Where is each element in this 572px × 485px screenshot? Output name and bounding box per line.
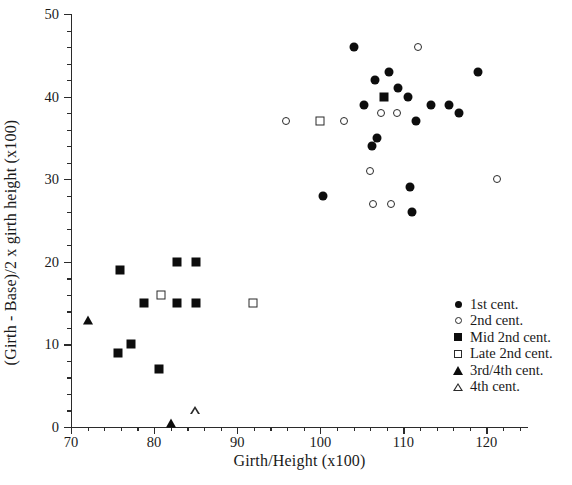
data-point-open-circle [340,117,348,125]
data-point-filled-square [113,348,122,357]
x-tick-minor [453,427,454,431]
x-tick-major [71,427,72,434]
data-point-open-circle [493,175,501,183]
y-tick-minor [67,377,71,378]
y-tick-minor [67,229,71,230]
y-tick-major [64,262,71,263]
x-tick-minor [387,427,388,431]
x-tick-minor [88,427,89,431]
data-point-filled-circle [360,100,369,109]
data-point-open-circle [393,109,401,117]
scatter-plot-figure: 708090100110120 01020304050 Girth/Height… [0,0,572,485]
data-point-filled-circle [349,43,358,52]
y-tick-minor [67,146,71,147]
data-point-filled-circle [406,183,415,192]
data-point-filled-square [116,266,125,275]
x-tick-label: 80 [147,434,162,451]
data-point-open-square [156,290,165,299]
legend-item-1: 1st cent. [450,296,553,313]
marker-glyph [453,366,463,375]
data-point-filled-circle [371,76,380,85]
y-tick-minor [67,196,71,197]
x-tick-minor [520,427,521,431]
x-tick-minor [304,427,305,431]
data-point-filled-square [172,299,181,308]
x-tick-major [237,427,238,434]
y-tick-minor [67,47,71,48]
data-point-filled-circle [385,67,394,76]
data-point-filled-triangle [166,418,176,427]
data-point-open-square [248,299,257,308]
data-point-filled-circle [474,67,483,76]
data-point-filled-triangle [83,315,93,324]
data-point-open-circle [282,117,290,125]
legend-marker-filled-square-icon [450,333,466,341]
legend-label: Mid 2nd cent. [470,329,551,346]
data-point-filled-circle [445,100,454,109]
legend-marker-open-square-icon [450,350,466,358]
legend-marker-filled-triangle-icon [450,366,466,375]
legend-item-6: 4th cent. [450,379,553,396]
data-point-filled-circle [411,117,420,126]
y-axis-line [71,14,72,428]
y-tick-minor [67,130,71,131]
y-tick-minor [67,80,71,81]
legend-label: 2nd cent. [470,312,523,329]
x-tick-minor [370,427,371,431]
data-point-filled-square [155,365,164,374]
y-axis-label: (Girth - Base)/2 x girth height (x100) [0,0,22,485]
x-tick-minor [187,427,188,431]
marker-glyph [455,317,462,324]
x-tick-major [320,427,321,434]
marker-glyph [454,350,462,358]
legend-item-4: Late 2nd cent. [450,346,553,363]
y-tick-minor [67,394,71,395]
legend-item-3: Mid 2nd cent. [450,329,553,346]
y-tick-minor [67,212,71,213]
x-tick-minor [121,427,122,431]
data-points-layer [71,14,528,22]
marker-glyph [453,383,463,391]
y-tick-label: 20 [45,253,60,270]
y-tick-minor [67,245,71,246]
x-tick-minor [254,427,255,431]
legend-item-2: 2nd cent. [450,313,553,330]
y-tick-major [64,179,71,180]
y-tick-label: 40 [45,88,60,105]
data-point-filled-circle [372,133,381,142]
x-tick-minor [104,427,105,431]
x-tick-label: 120 [476,434,498,451]
x-axis-label: Girth/Height (x100) [71,452,528,470]
data-point-filled-circle [404,92,413,101]
data-point-open-circle [387,200,395,208]
data-point-filled-circle [318,191,327,200]
legend-label: 1st cent. [470,296,518,313]
x-tick-minor [287,427,288,431]
x-tick-minor [420,427,421,431]
data-point-filled-square [126,340,135,349]
data-point-filled-circle [407,208,416,217]
y-tick-major [64,344,71,345]
data-point-open-triangle [190,406,200,414]
data-point-filled-circle [393,84,402,93]
x-tick-minor [137,427,138,431]
y-tick-label: 0 [52,419,59,436]
marker-glyph [455,301,462,308]
legend-label: Late 2nd cent. [470,345,553,362]
data-point-filled-square [140,299,149,308]
y-tick-label: 30 [45,171,60,188]
marker-glyph [454,333,462,341]
legend-marker-open-circle-icon [450,317,466,324]
data-point-filled-circle [455,109,464,118]
x-tick-minor [503,427,504,431]
data-point-open-circle [377,109,385,117]
x-tick-label: 70 [64,434,79,451]
y-tick-label: 50 [45,6,60,23]
legend-label: 3rd/4th cent. [470,362,543,379]
y-tick-major [64,427,71,428]
data-point-filled-square [191,257,200,266]
y-tick-minor [67,328,71,329]
data-point-filled-square [380,92,389,101]
x-tick-label: 110 [393,434,414,451]
legend-marker-open-triangle-icon [450,383,466,391]
